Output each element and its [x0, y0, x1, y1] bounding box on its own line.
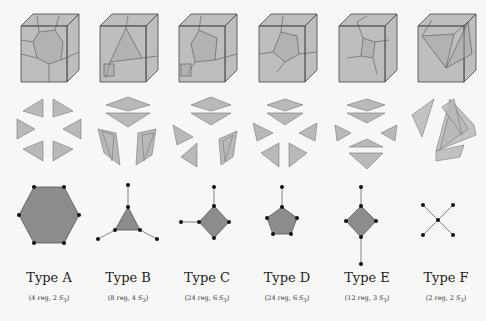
exploded-type-a [9, 95, 89, 177]
cube-type-f [406, 8, 486, 96]
exploded-e-icon [327, 95, 407, 177]
graph-type-e [327, 178, 407, 268]
cube-type-c [167, 8, 247, 96]
exploded-type-e [327, 95, 407, 177]
type-subtitle: (2 reg, 2 S3) [406, 292, 486, 306]
graph-type-d [247, 178, 327, 268]
type-subtitle: (8 reg, 4 S3) [88, 292, 168, 306]
cube-type-b [88, 8, 168, 96]
label-type-f: Type F (2 reg, 2 S3) [406, 270, 486, 306]
cube-row [0, 8, 486, 96]
type-subtitle: (4 reg, 2 S3) [9, 292, 89, 306]
type-subtitle: (24 reg, 6 S3) [247, 292, 327, 306]
graph-type-c [167, 178, 247, 268]
label-type-a: Type A (4 reg, 2 S3) [9, 270, 89, 306]
graph-type-b [88, 178, 168, 268]
exploded-row [0, 95, 486, 177]
cube-b-icon [88, 8, 168, 96]
exploded-a-icon [9, 95, 89, 177]
exploded-c-icon [167, 95, 247, 177]
graph-row [0, 178, 486, 268]
graph-type-a [9, 178, 89, 268]
type-title: Type D [247, 270, 327, 286]
exploded-type-f [406, 95, 486, 177]
exploded-b-icon [88, 95, 168, 177]
type-title: Type B [88, 270, 168, 286]
label-type-b: Type B (8 reg, 4 S3) [88, 270, 168, 306]
cube-type-e [327, 8, 407, 96]
cube-d-icon [247, 8, 327, 96]
type-title: Type C [167, 270, 247, 286]
graph-type-f [406, 178, 486, 268]
exploded-d-icon [247, 95, 327, 177]
type-subtitle: (12 reg, 3 S3) [327, 292, 407, 306]
pentagon-graph-icon [247, 178, 327, 268]
type-title: Type A [9, 270, 89, 286]
exploded-f-icon [406, 95, 486, 177]
exploded-type-b [88, 95, 168, 177]
x-cross-graph-icon [406, 178, 486, 268]
exploded-type-c [167, 95, 247, 177]
type-title: Type E [327, 270, 407, 286]
label-row: Type A (4 reg, 2 S3) Type B (8 reg, 4 S3… [0, 270, 486, 320]
label-type-e: Type E (12 reg, 3 S3) [327, 270, 407, 306]
square-graph-icon [167, 178, 247, 268]
hexagon-graph-icon [9, 178, 89, 268]
triangle-graph-icon [88, 178, 168, 268]
label-type-c: Type C (24 reg, 6 S3) [167, 270, 247, 306]
cube-e-icon [327, 8, 407, 96]
exploded-type-d [247, 95, 327, 177]
square-two-legs-graph-icon [327, 178, 407, 268]
type-subtitle: (24 reg, 6 S3) [167, 292, 247, 306]
label-type-d: Type D (24 reg, 6 S3) [247, 270, 327, 306]
cube-f-icon [406, 8, 486, 96]
cube-c-icon [167, 8, 247, 96]
cube-a-icon [9, 8, 89, 96]
type-title: Type F [406, 270, 486, 286]
cube-type-a [9, 8, 89, 96]
cube-type-d [247, 8, 327, 96]
